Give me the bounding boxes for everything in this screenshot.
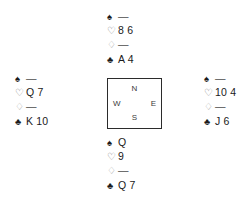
hand-south-clubs: Q 7 [117, 178, 136, 192]
bridge-deal-diagram: ♠ — ♡ 8 6 ♢ — ♣ A 4 ♠ — ♡ Q 7 ♢ — ♣ [0, 0, 250, 212]
compass-label-north: N [108, 85, 161, 93]
hand-south-diamonds: — [117, 163, 129, 177]
compass-label-south: S [108, 114, 161, 122]
hand-south-spades-row: ♠ Q [107, 135, 136, 149]
spade-icon: ♠ [15, 72, 25, 86]
hand-west-hearts-row: ♡ Q 7 [15, 85, 48, 99]
spade-icon: ♠ [204, 72, 214, 86]
compass-box: N W E S [107, 78, 162, 129]
heart-icon: ♡ [107, 150, 117, 164]
hand-south-diamonds-row: ♢ — [107, 163, 136, 177]
hand-south-hearts-row: ♡ 9 [107, 149, 136, 163]
compass-label-east: E [151, 100, 156, 108]
hand-west-clubs: K 10 [25, 114, 48, 128]
spade-icon: ♠ [107, 136, 117, 150]
club-icon: ♣ [204, 115, 214, 129]
heart-icon: ♡ [204, 86, 214, 100]
hand-east: ♠ — ♡ 10 4 ♢ — ♣ J 6 [204, 71, 236, 128]
hand-east-diamonds: — [214, 99, 226, 113]
hand-north: ♠ — ♡ 8 6 ♢ — ♣ A 4 [107, 9, 134, 66]
diamond-icon: ♢ [107, 164, 117, 178]
hand-east-clubs-row: ♣ J 6 [204, 114, 236, 128]
hand-east-hearts: 10 4 [214, 85, 236, 99]
hand-north-spades-row: ♠ — [107, 9, 134, 23]
hand-north-diamonds: — [117, 37, 129, 51]
hand-west-spades: — [25, 71, 37, 85]
spade-icon: ♠ [107, 10, 117, 24]
compass-label-west: W [113, 100, 121, 108]
hand-south: ♠ Q ♡ 9 ♢ — ♣ Q 7 [107, 135, 136, 192]
hand-west-spades-row: ♠ — [15, 71, 48, 85]
hand-south-hearts: 9 [117, 149, 124, 163]
heart-icon: ♡ [15, 86, 25, 100]
hand-north-clubs: A 4 [117, 52, 134, 66]
hand-west-diamonds: — [25, 99, 37, 113]
hand-north-spades: — [117, 9, 129, 23]
hand-north-hearts-row: ♡ 8 6 [107, 23, 134, 37]
club-icon: ♣ [15, 115, 25, 129]
hand-south-clubs-row: ♣ Q 7 [107, 178, 136, 192]
diamond-icon: ♢ [15, 100, 25, 114]
hand-north-diamonds-row: ♢ — [107, 37, 134, 51]
hand-east-clubs: J 6 [214, 114, 230, 128]
hand-east-spades: — [214, 71, 226, 85]
hand-north-hearts: 8 6 [117, 23, 133, 37]
hand-east-diamonds-row: ♢ — [204, 99, 236, 113]
hand-east-hearts-row: ♡ 10 4 [204, 85, 236, 99]
hand-east-spades-row: ♠ — [204, 71, 236, 85]
diamond-icon: ♢ [204, 100, 214, 114]
hand-west-hearts: Q 7 [25, 85, 44, 99]
hand-west: ♠ — ♡ Q 7 ♢ — ♣ K 10 [15, 71, 48, 128]
club-icon: ♣ [107, 179, 117, 193]
club-icon: ♣ [107, 53, 117, 67]
hand-north-clubs-row: ♣ A 4 [107, 52, 134, 66]
diamond-icon: ♢ [107, 38, 117, 52]
heart-icon: ♡ [107, 24, 117, 38]
hand-west-diamonds-row: ♢ — [15, 99, 48, 113]
hand-west-clubs-row: ♣ K 10 [15, 114, 48, 128]
hand-south-spades: Q [117, 135, 126, 149]
